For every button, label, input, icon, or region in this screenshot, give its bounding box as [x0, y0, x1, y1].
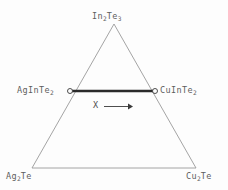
- label-sub-aginte2: 2: [50, 89, 54, 96]
- vertex-label-ag2te: Ag2Te: [6, 172, 32, 181]
- ternary-phase-diagram: In2Te3 AgInTe2 CuInTe2 Ag2Te Cu2Te X: [0, 0, 228, 190]
- marker-aginte2: [68, 89, 73, 94]
- label-sub-te3: 3: [118, 15, 122, 22]
- tieline-label-aginte2: AgInTe2: [17, 86, 54, 95]
- marker-cuinte2: [153, 89, 158, 94]
- label-text-te: Te: [107, 11, 118, 21]
- composition-variable-label: X: [93, 101, 98, 110]
- label-text-ag: Ag: [6, 171, 17, 181]
- label-sub-in2: 2: [103, 15, 107, 22]
- composition-triangle: [32, 24, 196, 168]
- vertex-label-in2te3: In2Te3: [92, 12, 122, 21]
- label-text-in: In: [92, 11, 103, 21]
- label-text-cu: Cu: [186, 171, 197, 181]
- label-sub-ag2: 2: [17, 175, 21, 182]
- tieline-label-cuinte2: CuInTe2: [160, 86, 197, 95]
- composition-arrow-head: [128, 104, 133, 110]
- label-sub-cu2: 2: [197, 175, 201, 182]
- vertex-label-cu2te: Cu2Te: [186, 172, 212, 181]
- label-sub-cuinte2: 2: [193, 89, 197, 96]
- label-text-te-left: Te: [21, 171, 32, 181]
- label-text-cuinte: CuInTe: [160, 85, 193, 95]
- label-text-aginte: AgInTe: [17, 85, 50, 95]
- label-text-te-right: Te: [201, 171, 212, 181]
